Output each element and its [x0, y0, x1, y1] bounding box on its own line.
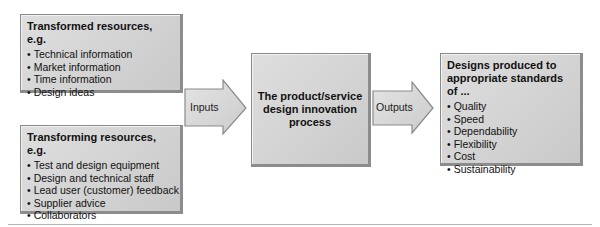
- list-item: Technical information: [27, 48, 174, 61]
- outputs-title: Designs produced to appropriate standard…: [447, 59, 574, 98]
- bottom-divider: [8, 224, 592, 225]
- list-item: Quality: [447, 100, 574, 113]
- transformed-resources-title: Transformed resources, e.g.: [27, 20, 174, 46]
- list-item: Supplier advice: [27, 197, 174, 210]
- transformed-resources-box: Transformed resources, e.g. Technical in…: [20, 14, 183, 93]
- list-item: Lead user (customer) feedback: [27, 184, 174, 197]
- transformed-resources-list: Technical information Market information…: [27, 48, 174, 98]
- outputs-list: Quality Speed Dependability Flexibility …: [447, 100, 574, 176]
- list-item: Flexibility: [447, 138, 574, 151]
- list-item: Sustainability: [447, 163, 574, 176]
- outputs-label: Outputs: [376, 101, 413, 113]
- list-item: Test and design equipment: [27, 159, 174, 172]
- list-item: Speed: [447, 113, 574, 126]
- inputs-label: Inputs: [190, 101, 219, 113]
- transforming-resources-list: Test and design equipment Design and tec…: [27, 159, 174, 222]
- list-item: Time information: [27, 73, 174, 86]
- list-item: Market information: [27, 61, 174, 74]
- outputs-arrow: Outputs: [372, 81, 435, 135]
- list-item: Dependability: [447, 125, 574, 138]
- list-item: Design and technical staff: [27, 172, 174, 185]
- outputs-box: Designs produced to appropriate standard…: [440, 53, 583, 166]
- transforming-resources-box: Transforming resources, e.g. Test and de…: [20, 125, 183, 214]
- list-item: Collaborators: [27, 209, 174, 222]
- transforming-resources-title: Transforming resources, e.g.: [27, 131, 174, 157]
- list-item: Design ideas: [27, 86, 174, 99]
- inputs-arrow: Inputs: [184, 79, 248, 136]
- design-process-box: The product/service design innovation pr…: [251, 53, 371, 167]
- list-item: Cost: [447, 150, 574, 163]
- design-process-title: The product/service design innovation pr…: [256, 90, 364, 129]
